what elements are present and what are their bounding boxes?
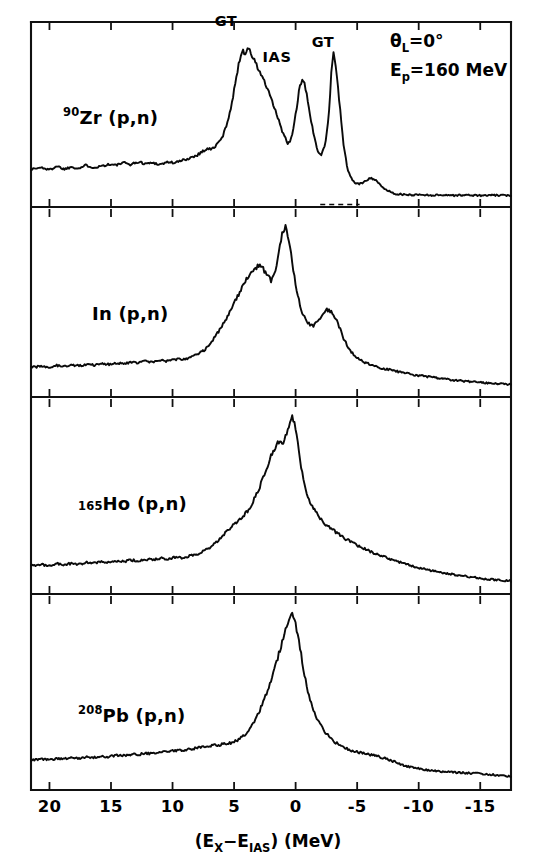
isotope-name-in: In (p,n): [92, 303, 168, 324]
x-tick-label-7: -15: [465, 797, 496, 816]
x-tick-label-0: 20: [38, 797, 62, 816]
axis-title-sub-ias: IAS: [249, 841, 270, 855]
x-tick-label-1: 15: [99, 797, 123, 816]
axis-title-close: ) (MeV): [270, 831, 341, 851]
angle-symbol: θ: [390, 31, 402, 51]
axis-title-open: (E: [195, 831, 214, 851]
peak-label-gt-1: GT: [215, 13, 238, 29]
isotope-mass-pb: 208: [78, 703, 103, 717]
axis-ticks: [49, 22, 480, 790]
axis-title-sub-x: X: [214, 841, 223, 855]
x-tick-label-2: 10: [161, 797, 185, 816]
axis-title-minus: −E: [223, 831, 249, 851]
angle-value: =0°: [409, 31, 444, 51]
energy-value: =160 MeV: [410, 60, 508, 80]
peak-label-ias: IAS: [263, 49, 292, 65]
energy-symbol: E: [390, 60, 402, 80]
isotope-name-zr: Zr (p,n): [79, 107, 158, 128]
panel-label-pb208: 208Pb (p,n): [78, 703, 186, 726]
spectrum-curve-208pb-p-n-: [31, 613, 511, 777]
isotope-mass-ho: 165: [78, 499, 103, 513]
isotope-name-ho-real: Ho (p,n): [103, 493, 187, 514]
x-tick-label-3: 5: [228, 797, 240, 816]
x-tick-labels: 20151050-5-10-15: [38, 797, 496, 816]
energy-subscript: p: [402, 70, 410, 84]
spectrum-figure-svg: 20151050-5-10-15 (EX−EIAS) (MeV) 90Zr (p…: [0, 0, 536, 868]
x-tick-label-5: -5: [348, 797, 367, 816]
figure-root: 20151050-5-10-15 (EX−EIAS) (MeV) 90Zr (p…: [0, 0, 536, 868]
isotope-mass-zr: 90: [63, 105, 79, 119]
x-tick-label-4: 0: [290, 797, 302, 816]
x-tick-label-6: -10: [403, 797, 434, 816]
condition-energy: Ep=160 MeV: [390, 60, 508, 84]
panel-frames: [31, 22, 511, 790]
x-axis-title: (EX−EIAS) (MeV): [195, 831, 341, 855]
panel-label-ho165: 165Ho (p,n): [78, 493, 187, 514]
condition-angle: θL=0°: [390, 31, 444, 55]
panel-label-in: In (p,n): [92, 303, 168, 324]
spectrum-curves: [31, 48, 511, 777]
isotope-name-pb: Pb (p,n): [103, 705, 186, 726]
panel-label-zr90: 90Zr (p,n): [63, 105, 158, 128]
peak-label-gt-2: GT: [312, 34, 335, 50]
